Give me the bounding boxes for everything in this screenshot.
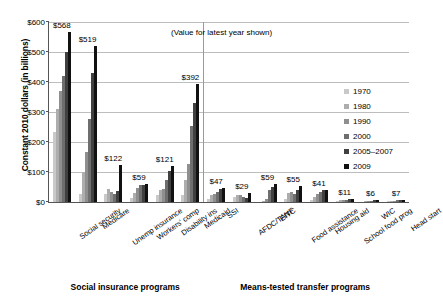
legend-item[interactable]: 1980 [344,99,410,114]
y-tick-label: $600 [5,18,45,27]
legend-label: 2000 [353,132,371,141]
bar-group: $59 [126,22,152,202]
bar-group: $55 [280,22,306,202]
bar-group: $47 [203,22,229,202]
section-divider [203,22,204,202]
bar [274,184,277,202]
y-tick-label: $0 [5,198,45,207]
bar [222,188,225,202]
bar-group: $568 [49,22,75,202]
bar-group: $59 [255,22,281,202]
bar-value-label: $121 [156,155,174,164]
chart-annotation: (Value for latest year shown) [171,28,272,37]
bar-value-label: $392 [182,73,200,82]
legend-label: 1970 [353,87,371,96]
bar [196,84,199,202]
bar-group: $41 [306,22,332,202]
bar [376,200,379,202]
y-tick-label: $100 [5,168,45,177]
bar [299,186,302,203]
bar-group: $519 [75,22,101,202]
bar-group: $122 [100,22,126,202]
legend-item[interactable]: 1970 [344,84,410,99]
bar-value-label: $568 [53,21,71,30]
bar-value-label: $11 [338,188,351,197]
bar-value-label: $47 [209,177,222,186]
bar-value-label: $55 [287,175,300,184]
legend-swatch-icon [344,134,349,139]
legend-swatch-icon [344,89,349,94]
bar-group: $121 [152,22,178,202]
bar [171,166,174,202]
legend-label: 2009 [353,162,371,171]
legend-item[interactable]: 1990 [344,114,410,129]
y-tick-label: $400 [5,78,45,87]
bar-value-label: $7 [392,189,401,198]
bar-value-label: $41 [312,179,325,188]
bar-group: $29 [229,22,255,202]
y-tick-label: $300 [5,108,45,117]
category-label: Head start [409,206,443,233]
section-title: Social insurance programs [35,282,215,292]
legend-item[interactable]: 2000 [344,129,410,144]
category-label: EITC [278,206,297,223]
bar-value-label: $59 [261,173,274,182]
bar-value-label: $519 [79,35,97,44]
section-title: Means-tested transfer programs [215,282,395,292]
bar-value-label: $6 [366,189,375,198]
bar [68,32,71,202]
bar [145,184,148,202]
legend-swatch-icon [344,149,349,154]
bar [325,190,328,202]
legend-swatch-icon [344,104,349,109]
bar [248,193,251,202]
legend-item[interactable]: 2009 [344,159,410,174]
y-tick-label: $200 [5,138,45,147]
bar-value-label: $122 [104,154,122,163]
legend-label: 1990 [353,117,371,126]
legend-swatch-icon [344,164,349,169]
bar [119,165,122,202]
bar [402,200,405,202]
bar-value-label: $59 [132,173,145,182]
bar-group: $392 [178,22,204,202]
bar [351,199,354,202]
legend: 19701980199020002005–20072009 [344,84,410,174]
y-tick-label: $500 [5,48,45,57]
legend-label: 1980 [353,102,371,111]
legend-label: 2005–2007 [353,147,393,156]
legend-item[interactable]: 2005–2007 [344,144,410,159]
bar-value-label: $29 [235,182,248,191]
legend-swatch-icon [344,119,349,124]
bar [94,46,97,202]
